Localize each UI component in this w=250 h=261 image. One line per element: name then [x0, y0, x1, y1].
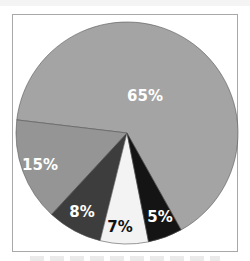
cropped-caption-strip: [30, 256, 220, 261]
slice-label: 7%: [107, 218, 132, 236]
slice-label: 8%: [69, 203, 94, 221]
slice-label: 5%: [147, 208, 172, 226]
slice-label: 65%: [127, 87, 163, 105]
slice-label: 15%: [22, 156, 58, 174]
pie-chart: 65%15%8%7%5%: [0, 0, 250, 261]
pie-slices: [16, 22, 238, 244]
